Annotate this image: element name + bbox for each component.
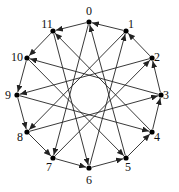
edge-4-to-3 xyxy=(153,98,161,129)
edge-11-to-10 xyxy=(29,33,51,56)
edge-1-to-8 xyxy=(29,33,124,130)
digraph-diagram: 01234567891011 xyxy=(0,0,179,192)
node-label-9: 9 xyxy=(5,88,11,102)
node-8 xyxy=(24,129,29,134)
node-9 xyxy=(14,92,19,97)
node-label-4: 4 xyxy=(154,130,160,144)
node-label-8: 8 xyxy=(17,130,23,144)
node-label-11: 11 xyxy=(41,17,53,31)
node-label-2: 2 xyxy=(154,50,160,64)
edge-10-to-9 xyxy=(18,61,26,92)
node-10 xyxy=(24,55,29,60)
node-label-1: 1 xyxy=(128,17,134,31)
node-label-5: 5 xyxy=(125,160,131,174)
edge-9-to-8 xyxy=(18,98,26,129)
node-label-6: 6 xyxy=(86,173,92,187)
edge-3-to-2 xyxy=(153,61,161,92)
node-6 xyxy=(86,165,91,170)
node-label-3: 3 xyxy=(163,88,169,102)
edge-5-to-4 xyxy=(128,134,150,156)
edge-0-to-11 xyxy=(56,23,86,31)
node-label-0: 0 xyxy=(86,4,92,18)
edges-group xyxy=(18,23,161,168)
graph-canvas: 01234567891011 xyxy=(0,0,179,192)
edge-7-to-6 xyxy=(56,159,86,167)
node-0 xyxy=(86,19,91,24)
edge-2-to-1 xyxy=(128,33,150,56)
node-label-10: 10 xyxy=(11,50,23,64)
node-label-7: 7 xyxy=(46,160,52,174)
edge-4-to-11 xyxy=(55,33,150,130)
edge-10-to-5 xyxy=(29,60,124,156)
edge-1-to-0 xyxy=(92,23,123,31)
edge-2-to-9 xyxy=(20,59,149,94)
edge-7-to-2 xyxy=(55,60,150,156)
edge-8-to-7 xyxy=(29,134,51,156)
edge-6-to-5 xyxy=(92,159,123,167)
